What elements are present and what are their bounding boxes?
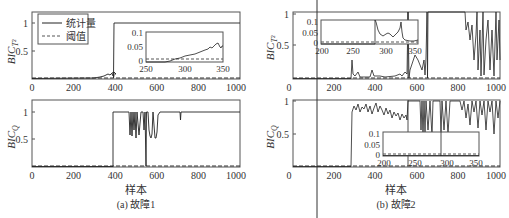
svg-text:200: 200 — [66, 82, 81, 93]
svg-text:200: 200 — [66, 170, 81, 181]
svg-text:300: 300 — [178, 64, 192, 74]
legend-threshold: 阈值 — [66, 30, 86, 42]
xlabel-b: 样本 — [385, 183, 407, 196]
svg-text:1000: 1000 — [226, 82, 246, 93]
svg-text:0: 0 — [30, 82, 35, 93]
svg-text:350: 350 — [408, 46, 422, 56]
figure: 1 0.5 0 200 400 600 800 1000 BICT² 统计量 阈… — [0, 0, 509, 218]
svg-text:1: 1 — [23, 107, 28, 118]
x-ticks: 0 200 400 600 800 1000 — [30, 170, 247, 181]
svg-text:400: 400 — [108, 170, 123, 181]
legend-statistic: 统计量 — [66, 17, 96, 29]
ytick-1: 1 — [23, 18, 28, 29]
svg-text:0: 0 — [30, 170, 35, 181]
svg-text:300: 300 — [379, 46, 393, 56]
svg-text:1000: 1000 — [226, 170, 246, 181]
panel-b-top: 1 0.5 0 200 400 600 800 1000 BICT² 0.1 0… — [264, 9, 506, 93]
panel-a-top: 1 0.5 0 200 400 600 800 1000 BICT² 统计量 阈… — [5, 12, 246, 93]
x-ticks: 0 200 400 600 800 1000 — [30, 82, 247, 93]
svg-text:0: 0 — [287, 170, 292, 181]
svg-text:800: 800 — [191, 170, 206, 181]
svg-text:0.05: 0.05 — [127, 42, 143, 52]
inset-b-bottom: 0.1 0.05 0 200 250 300 350 — [364, 129, 483, 168]
svg-text:800: 800 — [191, 82, 206, 93]
legend: 统计量 阈值 — [38, 14, 96, 44]
svg-text:0.1: 0.1 — [307, 17, 318, 27]
svg-text:250: 250 — [139, 64, 153, 74]
svg-text:200: 200 — [327, 170, 342, 181]
ytick-0.5: 0.5 — [16, 46, 29, 57]
svg-text:250: 250 — [408, 158, 422, 168]
caption-a: (a) 故障1 — [117, 198, 156, 211]
panel-a-bottom: 1 0.5 0 200 400 600 800 1000 BICQ 样本 (a)… — [5, 100, 246, 211]
svg-text:1: 1 — [284, 96, 289, 107]
svg-text:400: 400 — [368, 82, 383, 93]
svg-text:400: 400 — [368, 170, 383, 181]
svg-text:200: 200 — [327, 82, 342, 93]
svg-text:250: 250 — [346, 46, 360, 56]
svg-text:0.5: 0.5 — [16, 134, 29, 145]
svg-text:350: 350 — [216, 64, 230, 74]
svg-text:300: 300 — [440, 158, 454, 168]
svg-text:600: 600 — [410, 170, 425, 181]
x-ticks: 0 200 400 600 800 1000 — [287, 82, 507, 93]
svg-text:1: 1 — [284, 9, 289, 20]
svg-text:0: 0 — [287, 82, 292, 93]
svg-text:600: 600 — [410, 82, 425, 93]
svg-text:400: 400 — [108, 82, 123, 93]
svg-text:800: 800 — [451, 82, 466, 93]
inset-b-top: 0.1 0.05 0 200 250 300 350 — [302, 17, 422, 56]
svg-text:1000: 1000 — [486, 170, 506, 181]
xlabel-a: 样本 — [125, 183, 147, 196]
svg-text:0.1: 0.1 — [369, 129, 380, 139]
panel-b-bottom: 1 0.5 0 200 400 600 800 1000 BICQ 0.1 0.… — [264, 96, 506, 211]
svg-text:0.05: 0.05 — [302, 28, 318, 38]
svg-text:350: 350 — [469, 158, 483, 168]
svg-text:0.05: 0.05 — [364, 140, 380, 150]
svg-text:800: 800 — [451, 170, 466, 181]
x-ticks: 0 200 400 600 800 1000 — [287, 170, 507, 181]
svg-text:600: 600 — [149, 170, 164, 181]
svg-text:600: 600 — [149, 82, 164, 93]
inset-a: 0.1 0.05 0 250 300 350 — [127, 28, 230, 74]
svg-text:200: 200 — [377, 158, 391, 168]
caption-b: (b) 故障2 — [376, 198, 415, 211]
svg-text:1000: 1000 — [486, 82, 506, 93]
svg-text:0.1: 0.1 — [132, 28, 143, 38]
